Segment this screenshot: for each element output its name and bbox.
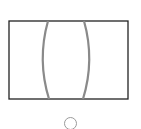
answer-option[interactable] — [0, 0, 141, 129]
frame — [9, 21, 128, 99]
biconvex-lens-icon — [0, 0, 141, 110]
option-radio-button[interactable] — [64, 117, 77, 129]
